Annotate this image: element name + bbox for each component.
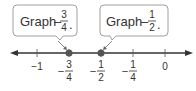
callout-numerator: 3: [61, 9, 67, 20]
tick-label-neg-1-2: – 1 2: [90, 59, 105, 83]
callout-sign: –: [141, 14, 149, 29]
callout-graph-neg-one-half: Graph – 1 2 .: [100, 5, 168, 40]
svg-text:–: –: [122, 65, 128, 76]
point-neg-1-2: [98, 50, 105, 57]
callout-denominator: 4: [61, 22, 67, 33]
point-neg-3-4: [66, 50, 73, 57]
callout-denominator: 2: [149, 22, 155, 33]
right-arrow-icon: [185, 50, 193, 56]
svg-text:4: 4: [130, 72, 136, 83]
svg-text:–: –: [58, 65, 64, 76]
number-line-diagram: Graph – 3 4 . Graph – 1 2 . −1 – 3: [0, 0, 196, 91]
svg-text:2: 2: [98, 72, 104, 83]
left-arrow-icon: [10, 50, 18, 56]
tick-label-neg-1-4: – 1 4: [122, 59, 137, 83]
tick-label-neg-3-4: – 3 4: [58, 59, 73, 83]
callout-graph-neg-three-fourths: Graph – 3 4 .: [13, 5, 77, 40]
svg-text:–: –: [90, 65, 96, 76]
callout-period: .: [157, 17, 161, 32]
callout-numerator: 1: [149, 9, 155, 20]
svg-text:1: 1: [98, 59, 104, 70]
tick-label-0: 0: [162, 61, 168, 72]
svg-text:3: 3: [66, 59, 72, 70]
svg-text:4: 4: [66, 72, 72, 83]
callout-label: Graph: [106, 14, 142, 29]
svg-text:1: 1: [130, 59, 136, 70]
callout-period: .: [69, 17, 73, 32]
tick-label-neg-1: −1: [31, 61, 43, 72]
callout-label: Graph: [20, 14, 56, 29]
